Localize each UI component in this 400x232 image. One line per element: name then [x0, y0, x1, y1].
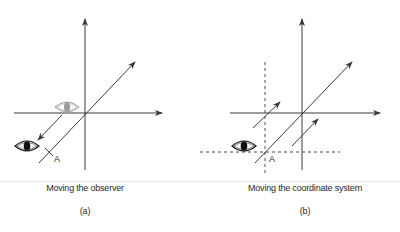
point-a-label-a: A	[54, 154, 60, 164]
eye-icon-original	[55, 102, 79, 112]
panel-b	[200, 19, 380, 174]
movement-arrow-1	[253, 102, 280, 128]
panel-label-b: (b)	[300, 206, 310, 216]
eye-icon-moved	[15, 141, 39, 151]
point-a-label-b: A	[269, 154, 275, 164]
eye-icon	[232, 141, 256, 151]
caption-b: Moving the coordinate system	[248, 183, 362, 193]
diagram-canvas	[0, 0, 400, 232]
movement-arrow	[38, 115, 62, 140]
panel-label-a: (a)	[80, 206, 90, 216]
caption-a: Moving the observer	[46, 183, 124, 193]
panel-a	[14, 19, 162, 170]
movement-arrow-2	[292, 119, 318, 146]
